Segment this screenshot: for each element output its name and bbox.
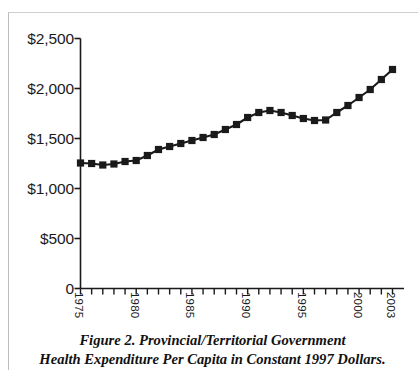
x-axis-label-list: 1975198019851990199520002003 xyxy=(0,0,420,330)
caption-line-2: Health Expenditure Per Capita in Constan… xyxy=(10,350,415,369)
caption-line-1: Figure 2. Provincial/Territorial Governm… xyxy=(10,331,415,350)
chart-area: 0$500$1,000$1,500$2,000$2,500 1975198019… xyxy=(0,0,420,330)
x-axis-tick-label: 1995 xyxy=(296,292,308,318)
x-axis-tick-label: 2000 xyxy=(352,292,364,318)
x-axis-tick-label: 1975 xyxy=(73,292,85,318)
x-axis-tick-label: 2003 xyxy=(385,292,397,318)
figure-caption: Figure 2. Provincial/Territorial Governm… xyxy=(10,331,415,369)
x-axis-tick-label: 1980 xyxy=(129,292,141,318)
x-axis-tick-label: 1985 xyxy=(184,292,196,318)
x-axis-tick-label: 1990 xyxy=(240,292,252,318)
